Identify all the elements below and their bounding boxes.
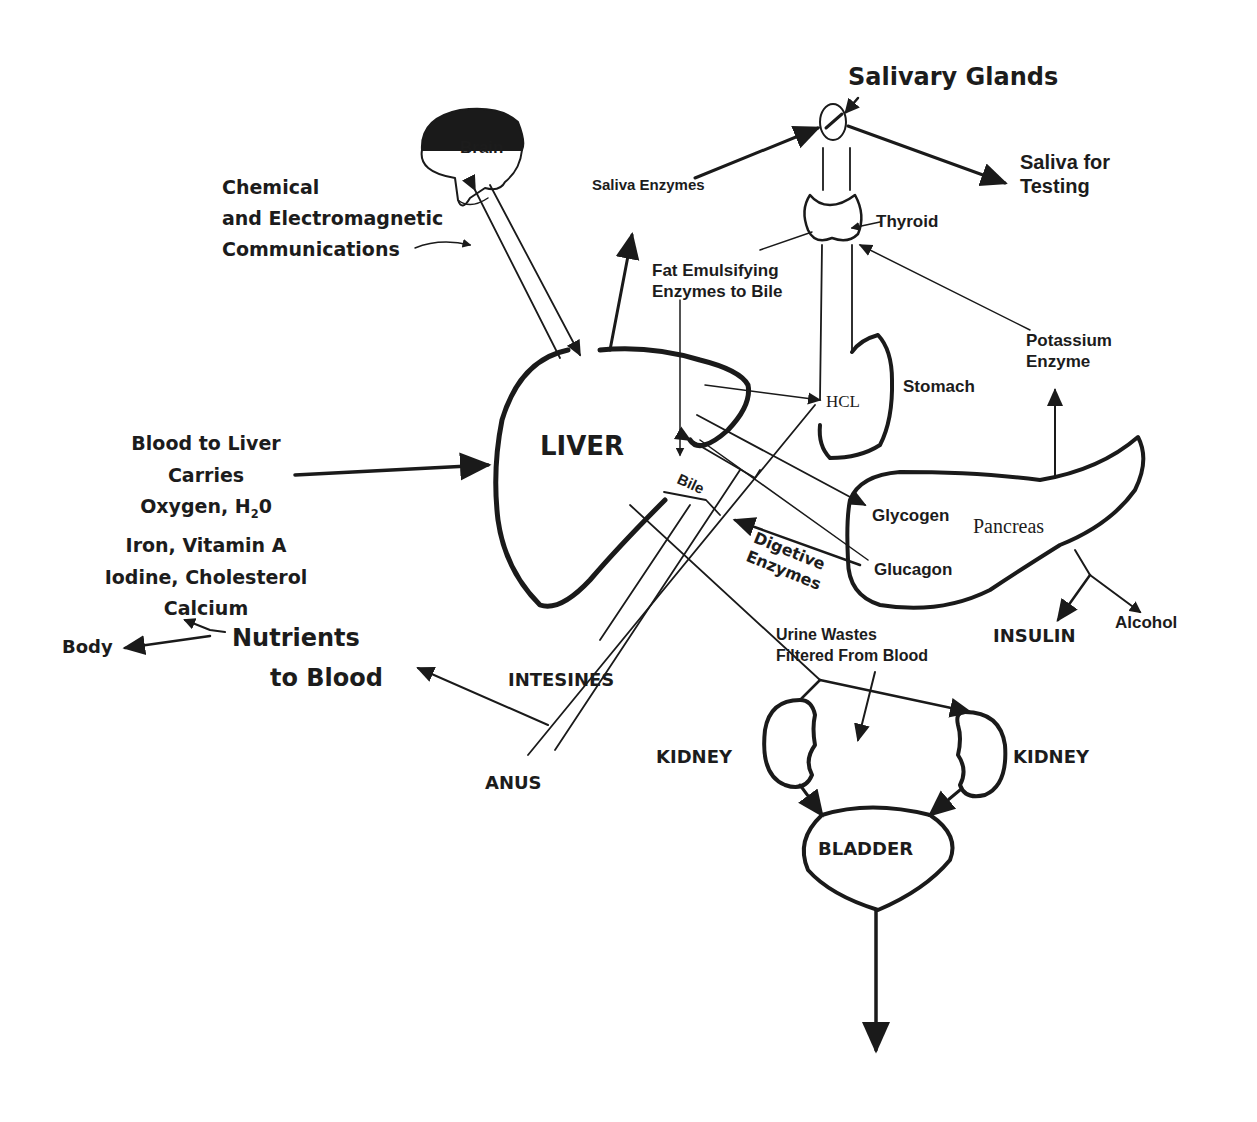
urine-wastes-line-1: Urine Wastes <box>776 624 928 645</box>
nutrients-line-1: Nutrients <box>232 618 383 658</box>
pancreas-label: Pancreas <box>973 515 1044 538</box>
thyroid-label: Thyroid <box>876 212 938 232</box>
saliva-testing-line-2: Testing <box>1020 174 1110 198</box>
potassium-line-2: Enzyme <box>1026 351 1112 372</box>
communications-line-2: and Electromagnetic <box>222 203 443 234</box>
body-label: Body <box>62 637 113 658</box>
bladder-label: BLADDER <box>818 839 913 860</box>
kidney-left-label: KIDNEY <box>656 747 732 768</box>
blood-line-2: Carries <box>78 460 334 492</box>
saliva-testing-label: Saliva for Testing <box>1020 150 1110 198</box>
saliva-enzymes-label: Saliva Enzymes <box>592 176 705 193</box>
blood-line-4: Iron, Vitamin A <box>78 530 334 562</box>
communications-label: Chemical and Electromagnetic Communicati… <box>222 172 443 265</box>
nutrients-line-2: to Blood <box>232 658 383 698</box>
hcl-label: HCL <box>826 392 860 412</box>
saliva-testing-line-1: Saliva for <box>1020 150 1110 174</box>
blood-line-1: Blood to Liver <box>78 428 334 460</box>
brain-liver-line-down <box>490 185 580 355</box>
kidney-left-shape <box>764 700 815 787</box>
blood-to-liver-label: Blood to Liver Carries Oxygen, H20 Iron,… <box>78 428 334 625</box>
blood-line-5: Iodine, Cholesterol <box>78 562 334 594</box>
urine-wastes-line-2: Filtered From Blood <box>776 645 928 666</box>
intestines-label: INTESINES <box>508 670 614 691</box>
nutrients-to-blood-label: Nutrients to Blood <box>232 618 383 698</box>
insulin-label: INSULIN <box>993 626 1076 647</box>
stomach-label: Stomach <box>903 377 975 397</box>
fat-emulsifying-line-2: Enzymes to Bile <box>652 281 782 302</box>
communications-line-3: Communications <box>222 234 443 265</box>
fat-emulsifying-line-1: Fat Emulsifying <box>652 260 782 281</box>
potassium-line-1: Potassium <box>1026 330 1112 351</box>
salivary-glands-label: Salivary Glands <box>848 64 1058 92</box>
anus-label: ANUS <box>485 773 542 794</box>
alcohol-label: Alcohol <box>1115 613 1177 633</box>
communications-line-1: Chemical <box>222 172 443 203</box>
glucagon-label: Glucagon <box>874 560 952 580</box>
fat-emulsifying-label: Fat Emulsifying Enzymes to Bile <box>652 260 782 302</box>
liver-label: LIVER <box>540 432 624 462</box>
thyroid-shape <box>804 195 861 240</box>
kidney-right-label: KIDNEY <box>1013 747 1089 768</box>
glycogen-label: Glycogen <box>872 506 949 526</box>
blood-line-3: Oxygen, H20 <box>78 491 334 530</box>
kidney-right-shape <box>957 712 1005 796</box>
potassium-enzyme-label: Potassium Enzyme <box>1026 330 1112 372</box>
brain-liver-line-up <box>475 190 560 358</box>
liver-shape <box>496 349 749 607</box>
urine-wastes-label: Urine Wastes Filtered From Blood <box>776 624 928 666</box>
brain-label: Brain <box>460 138 503 158</box>
